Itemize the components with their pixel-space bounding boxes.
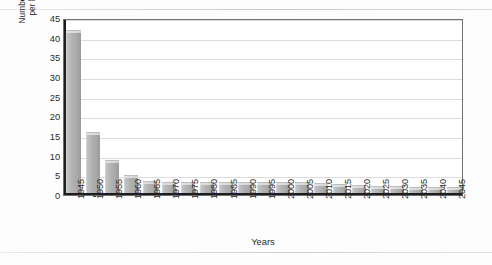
x-axis-tick-label: 2020	[362, 179, 372, 199]
x-axis-tick-label: 1990	[248, 179, 258, 199]
y-axis-title-line-2: per beneficiary	[28, 0, 38, 16]
x-axis-tick-label: 1975	[190, 179, 200, 199]
plot-area	[63, 19, 463, 196]
y-axis-tick-label: 15	[50, 132, 60, 142]
y-axis-tick-label: 10	[50, 152, 60, 162]
y-axis-tick-label: 20	[50, 112, 60, 122]
x-axis-tick-label: 1960	[133, 179, 143, 199]
y-axis-tick-label: 40	[50, 34, 60, 44]
y-axis-title-line-1: Number of workers	[18, 0, 28, 23]
y-axis-tick-label: 35	[50, 53, 60, 63]
bar-top-face	[66, 30, 80, 33]
x-axis-tick-label: 1945	[76, 179, 86, 199]
bar-front-face	[66, 30, 80, 195]
x-axis-tick-label: 1965	[152, 179, 162, 199]
bar-top-face	[124, 175, 138, 178]
y-axis-line	[64, 20, 66, 195]
y-axis-tick-label: 30	[50, 73, 60, 83]
bar-chart-figure: Number of workers per beneficiary 051015…	[0, 0, 492, 265]
bar	[66, 30, 80, 195]
x-axis-tick-label: 2000	[286, 179, 296, 199]
x-axis-tick-label: 2015	[343, 179, 353, 199]
x-axis-tick-label: 1970	[171, 179, 181, 199]
x-axis-tick-label: 2025	[381, 179, 391, 199]
x-axis-tick-label: 1950	[95, 179, 105, 199]
x-axis-tick-labels: 1945195019551960196519701975198019851990…	[63, 198, 463, 238]
x-axis-tick-label: 2010	[324, 179, 334, 199]
x-axis-title: Years	[63, 236, 463, 247]
x-axis-tick-label: 2030	[400, 179, 410, 199]
x-axis-tick-label: 2045	[457, 179, 467, 199]
y-axis-tick-label: 25	[50, 93, 60, 103]
y-axis-tick-label: 5	[55, 171, 60, 181]
y-axis-tick-labels: 051015202530354045	[33, 19, 60, 196]
x-axis-tick-label: 2005	[305, 179, 315, 199]
bar-series	[64, 20, 462, 195]
x-axis-tick-label: 1955	[114, 179, 124, 199]
y-axis-tick-label: 45	[50, 14, 60, 24]
page-rule-top	[0, 9, 492, 10]
x-axis-tick-label: 2040	[438, 179, 448, 199]
x-axis-tick-label: 1995	[267, 179, 277, 199]
bar-top-face	[105, 160, 119, 163]
page-rule-bottom	[0, 252, 492, 253]
bar-top-face	[86, 132, 100, 135]
x-axis-tick-label: 1985	[229, 179, 239, 199]
x-axis-tick-label: 1980	[209, 179, 219, 199]
x-axis-tick-label: 2035	[419, 179, 429, 199]
y-axis-tick-label: 0	[55, 191, 60, 201]
